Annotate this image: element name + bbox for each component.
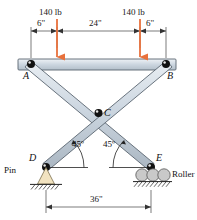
angle-label-E: 45º — [103, 140, 115, 149]
joint-label-A: A — [23, 71, 29, 81]
angle-label-D: 45º — [72, 140, 84, 149]
joint-label-C: C — [104, 108, 111, 118]
member-A-E — [25, 61, 154, 171]
dimension-label-right-6in: 6" — [146, 19, 154, 28]
load-label-left: 140 lb — [39, 8, 62, 17]
load-label-right: 140 lb — [122, 8, 145, 17]
roller-support-E — [133, 169, 172, 187]
top-dimension-chain — [31, 27, 166, 58]
joint-pin-B — [162, 60, 170, 68]
pin-support-D — [30, 168, 62, 190]
support-label-pin: Pin — [4, 166, 16, 175]
joint-pin-A — [27, 60, 35, 68]
diagram-svg — [0, 0, 197, 220]
dimension-label-left-6in: 6" — [37, 19, 45, 28]
joint-label-B: B — [167, 71, 173, 81]
dimension-label-36in: 36" — [90, 195, 103, 204]
top-beam — [18, 59, 176, 70]
dimension-label-24in: 24" — [89, 19, 102, 28]
joint-label-E: E — [156, 153, 162, 163]
support-label-roller: Roller — [172, 170, 195, 179]
figure-canvas: 140 lb 140 lb 6" 24" 6" A B C D E 45º 45… — [0, 0, 197, 220]
joint-label-D: D — [29, 153, 36, 163]
joint-pin-C — [95, 109, 103, 117]
